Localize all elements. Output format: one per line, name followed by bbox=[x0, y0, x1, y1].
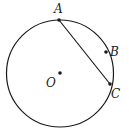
chord-ac bbox=[59, 20, 110, 84]
label-b: B bbox=[109, 45, 119, 59]
point-a bbox=[57, 18, 61, 22]
point-c bbox=[108, 82, 112, 86]
point-o-center bbox=[58, 71, 62, 75]
label-c: C bbox=[111, 87, 120, 101]
label-o: O bbox=[46, 76, 56, 90]
point-b bbox=[104, 50, 108, 54]
circle-diagram: A B C O bbox=[0, 0, 129, 133]
label-a: A bbox=[53, 2, 63, 16]
